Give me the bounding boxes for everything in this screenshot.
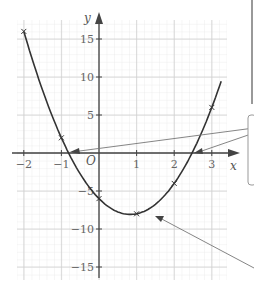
x-axis-label: x (230, 159, 237, 173)
svg-text:10: 10 (80, 71, 94, 84)
svg-text:1: 1 (133, 158, 140, 171)
x-axis-arrow-icon (228, 149, 240, 157)
y-axis-label: y (83, 11, 91, 25)
svg-text:3: 3 (208, 158, 215, 171)
svg-text:−15: −15 (71, 261, 94, 274)
callout-box (248, 115, 254, 185)
grid (17, 20, 227, 280)
svg-text:5: 5 (87, 109, 94, 122)
svg-text:2: 2 (171, 158, 178, 171)
svg-text:−5: −5 (78, 185, 94, 198)
svg-text:15: 15 (80, 33, 94, 46)
svg-text:−1: −1 (53, 158, 69, 171)
svg-text:−10: −10 (71, 223, 94, 236)
svg-text:−2: −2 (16, 158, 32, 171)
y-axis-arrow-icon (95, 12, 103, 24)
origin-label: O (86, 154, 96, 168)
quadratic-graph: y x O −2−112315105−5−10−15 (0, 0, 254, 284)
